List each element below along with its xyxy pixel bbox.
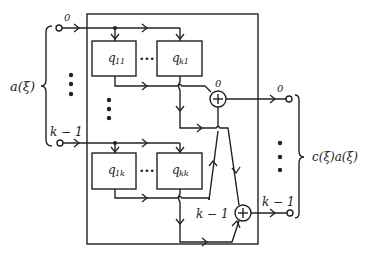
summer-k-1: k − 1 (196, 205, 251, 221)
output-bus-label: c(ξ)a(ξ) (312, 150, 358, 164)
row2-ellipsis: ••• (139, 166, 155, 176)
output-ellipsis-dots (278, 141, 282, 172)
input-ellipsis-dots (69, 73, 73, 96)
block-diagram: a(ξ) 0 q 11 ••• q k1 (0, 0, 375, 262)
svg-text:11: 11 (115, 57, 125, 66)
output-0-label: 0 (277, 83, 284, 94)
svg-text:0: 0 (215, 78, 222, 89)
svg-text:1k: 1k (115, 169, 125, 178)
row-ellipsis-dots (107, 98, 111, 120)
summer-0: 0 (210, 78, 226, 107)
input-k-1: k − 1 (50, 125, 184, 153)
svg-text:k − 1: k − 1 (196, 207, 229, 221)
input-0: 0 (56, 12, 184, 41)
output-k-1-terminal (287, 210, 293, 216)
svg-text:k1: k1 (179, 57, 189, 66)
output-brace (295, 95, 304, 218)
svg-text:kk: kk (179, 169, 189, 178)
output-k-1-label: k − 1 (262, 195, 295, 209)
input-0-label: 0 (64, 12, 71, 23)
row1-ellipsis: ••• (139, 54, 155, 64)
svg-text:k − 1: k − 1 (50, 125, 83, 139)
output-0-terminal (286, 96, 292, 102)
input-bus-label: a(ξ) (10, 79, 35, 94)
